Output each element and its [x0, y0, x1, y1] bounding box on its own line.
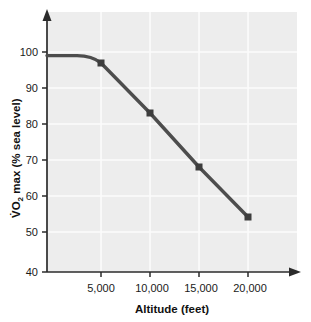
x-tick-label-15000: 15,000	[184, 282, 218, 294]
vo2max-altitude-line-chart: 100 90 80 70 60 50 40 5,000 10,000 15,00…	[0, 0, 311, 322]
y-axis-title-o: O	[10, 201, 22, 210]
y-tick-label-40: 40	[26, 266, 38, 278]
data-point-15000	[196, 164, 203, 171]
y-tick-label-80: 80	[26, 118, 38, 130]
y-axis-title-rest: max (% sea level)	[10, 98, 22, 197]
data-point-5000	[98, 60, 105, 67]
x-axis-title: Altitude (feet)	[135, 303, 209, 315]
data-point-20000	[245, 214, 252, 221]
chart-figure: 100 90 80 70 60 50 40 5,000 10,000 15,00…	[0, 0, 311, 322]
x-tick-label-5000: 5,000	[87, 282, 115, 294]
x-tick-label-10000: 10,000	[135, 282, 169, 294]
data-point-10000	[147, 110, 154, 117]
y-tick-label-90: 90	[26, 82, 38, 94]
y-tick-label-50: 50	[26, 226, 38, 238]
y-tick-label-70: 70	[26, 154, 38, 166]
y-tick-label-60: 60	[26, 190, 38, 202]
y-tick-label-100: 100	[20, 46, 38, 58]
plot-area-background	[47, 12, 297, 272]
x-tick-label-20000: 20,000	[233, 282, 267, 294]
